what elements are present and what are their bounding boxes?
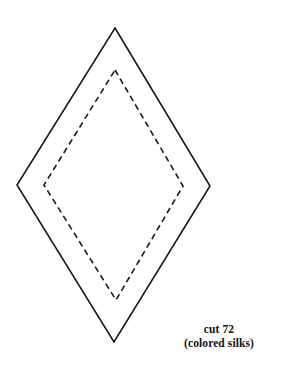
caption-cut-quantity: cut 72 [160, 322, 278, 336]
caption-material: (colored silks) [160, 336, 278, 350]
pattern-caption: cut 72 (colored silks) [160, 322, 278, 350]
stitching-line-inner-diamond [44, 70, 183, 300]
pattern-sheet: cut 72 (colored silks) [0, 0, 282, 377]
pattern-diagram [0, 0, 282, 377]
